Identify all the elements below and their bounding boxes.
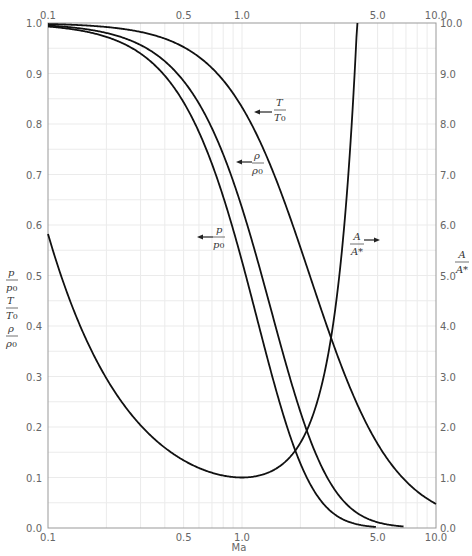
left-axis-label: p p0 T T0 ρ ρ0 <box>5 267 18 349</box>
svg-text:6.0: 6.0 <box>440 220 456 231</box>
svg-text:0.1: 0.1 <box>40 532 56 543</box>
curve-rho-rho0 <box>48 26 404 527</box>
svg-text:3.0: 3.0 <box>440 372 456 383</box>
grid-lines <box>48 23 436 528</box>
svg-text:5.0: 5.0 <box>370 10 386 21</box>
svg-text:0.0: 0.0 <box>26 523 42 534</box>
annotation-rho-rho0: ρ ρ0 <box>236 150 264 176</box>
svg-text:1.0: 1.0 <box>26 18 42 29</box>
svg-text:p0: p0 <box>213 239 225 250</box>
svg-text:ρ0: ρ0 <box>5 338 17 349</box>
svg-text:p: p <box>8 267 15 278</box>
svg-text:ρ0: ρ0 <box>251 165 263 176</box>
svg-text:0.9: 0.9 <box>26 69 42 80</box>
svg-text:10.0: 10.0 <box>440 18 462 29</box>
svg-text:ρ: ρ <box>253 150 260 161</box>
svg-text:A: A <box>457 249 465 260</box>
svg-text:1.0: 1.0 <box>440 473 456 484</box>
svg-text:p0: p0 <box>6 282 18 293</box>
svg-text:A*: A* <box>455 264 468 275</box>
x-axis-label: Ma <box>232 542 247 553</box>
svg-text:A: A <box>352 231 360 242</box>
svg-text:2.0: 2.0 <box>440 422 456 433</box>
svg-text:T0: T0 <box>274 112 286 123</box>
svg-text:0.5: 0.5 <box>26 271 42 282</box>
svg-text:9.0: 9.0 <box>440 69 456 80</box>
svg-text:0.2: 0.2 <box>26 422 42 433</box>
annotation-p-p0: p p0 <box>197 224 225 250</box>
svg-text:0.8: 0.8 <box>26 119 42 130</box>
svg-text:7.0: 7.0 <box>440 170 456 181</box>
svg-text:0.7: 0.7 <box>26 170 42 181</box>
svg-text:0.1: 0.1 <box>40 10 56 21</box>
svg-text:p: p <box>216 224 223 235</box>
svg-text:T0: T0 <box>6 310 18 321</box>
annotation-A-Astar: A A* <box>350 231 380 257</box>
svg-text:5.0: 5.0 <box>370 532 386 543</box>
svg-text:4.0: 4.0 <box>440 321 456 332</box>
svg-text:T: T <box>7 295 15 306</box>
svg-text:0.5: 0.5 <box>176 532 192 543</box>
svg-text:0.6: 0.6 <box>26 220 42 231</box>
axis-ticks: 0.10.10.50.51.01.05.05.010.010.00.00.10.… <box>26 10 462 543</box>
svg-text:0.1: 0.1 <box>26 473 42 484</box>
svg-text:8.0: 8.0 <box>440 119 456 130</box>
svg-text:0.0: 0.0 <box>440 523 456 534</box>
svg-text:0.5: 0.5 <box>176 10 192 21</box>
svg-text:1.0: 1.0 <box>234 10 250 21</box>
svg-text:0.3: 0.3 <box>26 372 42 383</box>
svg-text:0.4: 0.4 <box>26 321 42 332</box>
svg-text:ρ: ρ <box>7 323 14 334</box>
annotation-T-T0: T T0 <box>254 97 286 123</box>
isentropic-flow-chart: 0.10.10.50.51.01.05.05.010.010.00.00.10.… <box>0 0 472 556</box>
right-axis-label: A A* <box>455 249 469 275</box>
svg-text:A*: A* <box>350 246 363 257</box>
svg-text:5.0: 5.0 <box>440 271 456 282</box>
